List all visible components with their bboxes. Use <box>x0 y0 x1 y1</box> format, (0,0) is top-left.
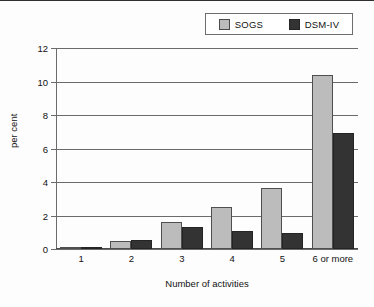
x-tick-label-6: 6 or more <box>308 253 358 264</box>
x-tick-label-3: 3 <box>157 253 207 264</box>
y-tick-label-4: 4 <box>43 177 48 188</box>
legend-item-sogs: SOGS <box>219 19 263 30</box>
bar-sogs-6[interactable] <box>312 75 333 249</box>
bar-group-6 <box>308 48 358 249</box>
x-tick-label-4: 4 <box>207 253 257 264</box>
legend-label-sogs: SOGS <box>235 19 263 30</box>
y-tick-mark-0 <box>51 249 56 250</box>
bar-chart: SOGS DSM-IV 024681012 123456 or more Num… <box>0 0 374 307</box>
bar-group-3 <box>157 48 207 249</box>
bar-sogs-4[interactable] <box>211 207 232 249</box>
bar-dsm-iv-2[interactable] <box>131 240 152 249</box>
bar-sogs-1[interactable] <box>60 247 81 249</box>
gridline-0 <box>56 249 358 250</box>
y-tick-label-10: 10 <box>37 76 48 87</box>
y-tick-label-6: 6 <box>43 143 48 154</box>
header-rule <box>0 0 374 1</box>
chart-legend: SOGS DSM-IV <box>205 13 353 35</box>
y-tick-label-0: 0 <box>43 244 48 255</box>
x-axis-tick-labels: 123456 or more <box>56 253 358 264</box>
bar-sogs-5[interactable] <box>261 188 282 249</box>
bar-dsm-iv-6[interactable] <box>333 133 354 249</box>
bar-dsm-iv-5[interactable] <box>282 233 303 249</box>
legend-swatch-dsm-iv <box>289 19 300 30</box>
x-tick-label-1: 1 <box>56 253 106 264</box>
bar-group-2 <box>106 48 156 249</box>
bars-layer <box>56 48 358 249</box>
x-axis-title: Number of activities <box>56 278 358 289</box>
legend-swatch-sogs <box>219 19 230 30</box>
bar-dsm-iv-3[interactable] <box>182 227 203 249</box>
y-tick-label-2: 2 <box>43 210 48 221</box>
plot-area: 024681012 <box>56 48 358 249</box>
bar-dsm-iv-1[interactable] <box>81 247 102 250</box>
bar-group-5 <box>257 48 307 249</box>
bar-sogs-3[interactable] <box>161 222 182 249</box>
bar-sogs-2[interactable] <box>110 241 131 249</box>
x-tick-label-2: 2 <box>106 253 156 264</box>
bar-group-4 <box>207 48 257 249</box>
y-axis-title: per cent <box>8 114 19 148</box>
legend-item-dsm-iv: DSM-IV <box>289 19 339 30</box>
y-tick-label-8: 8 <box>43 110 48 121</box>
legend-label-dsm-iv: DSM-IV <box>305 19 339 30</box>
x-tick-label-5: 5 <box>257 253 307 264</box>
y-tick-label-12: 12 <box>37 43 48 54</box>
bar-group-1 <box>56 48 106 249</box>
bar-dsm-iv-4[interactable] <box>232 231 253 249</box>
